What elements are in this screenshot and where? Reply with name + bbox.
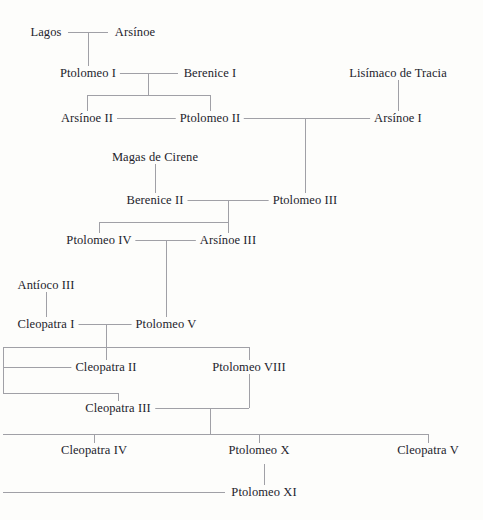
genealogy-diagram: LagosArsínoePtolomeo IBerenice ILisímaco… — [0, 0, 483, 520]
person-berenice1: Berenice I — [180, 66, 241, 80]
person-arsinoe: Arsínoe — [111, 25, 159, 39]
connector-ptolomeo2-arsinoe1-union — [242, 118, 373, 119]
connector-ptolomeo4-arsinoe3-union — [130, 240, 198, 241]
person-ptolomeo5: Ptolomeo V — [132, 317, 201, 331]
person-cleopatra3: Cleopatra III — [81, 401, 155, 415]
person-ptolomeo10: Ptolomeo X — [224, 443, 293, 457]
connector-cleopatra3-ptolomeo8-bar — [153, 408, 249, 409]
person-lisimaco: Lisímaco de Tracia — [345, 66, 451, 80]
connector-cleopatra3-stem — [210, 408, 211, 434]
connector-ptolomeo4-arsinoe3-stem — [166, 240, 167, 324]
person-magas: Magas de Cirene — [108, 150, 202, 164]
person-lagos: Lagos — [26, 25, 65, 39]
connector-ptolomeo1-stem — [148, 73, 149, 95]
person-ptolomeo8: Ptolomeo VIII — [208, 360, 290, 374]
person-ptolomeo1: Ptolomeo I — [56, 66, 120, 80]
connector-ptolomeo5-left-drop — [3, 347, 4, 393]
person-berenice2: Berenice II — [123, 193, 188, 207]
connector-cleopatra1-ptolomeo5-union — [74, 324, 136, 325]
person-ptolomeo4: Ptolomeo IV — [62, 233, 135, 247]
person-cleopatra4: Cleopatra IV — [57, 443, 131, 457]
person-cleopatra1: Cleopatra I — [14, 317, 79, 331]
person-arsinoe2: Arsínoe II — [57, 111, 117, 125]
person-ptolomeo11: Ptolomeo XI — [227, 485, 300, 499]
connector-arsinoe2-ptolomeo2-union — [110, 118, 178, 119]
connector-ptolomeo1-children-bar — [87, 95, 211, 96]
connector-ptolomeo8-drop — [249, 347, 250, 408]
connector-berenice2-children-bar — [99, 222, 228, 223]
person-cleopatra5: Cleopatra V — [393, 443, 463, 457]
connector-ptolomeo2-to-ptolomeo3 — [305, 118, 306, 200]
connector-ptolomeo5-children-bar — [3, 347, 249, 348]
person-arsinoe3: Arsínoe III — [196, 233, 260, 247]
connector-cleopatra2-left-bar — [3, 367, 73, 368]
person-antioco3: Antíoco III — [14, 278, 79, 292]
connector-ptolomeo11-bar — [3, 492, 225, 493]
person-ptolomeo2: Ptolomeo II — [176, 111, 244, 125]
person-ptolomeo3: Ptolomeo III — [269, 193, 342, 207]
connector-ptolomeo1-berenice1-union — [110, 73, 178, 74]
person-arsinoe1: Arsínoe I — [370, 111, 426, 125]
connector-cleopatra3-children-bar — [3, 434, 428, 435]
connector-cleopatra3-left-bar — [3, 393, 118, 394]
person-cleopatra2: Cleopatra II — [71, 360, 140, 374]
